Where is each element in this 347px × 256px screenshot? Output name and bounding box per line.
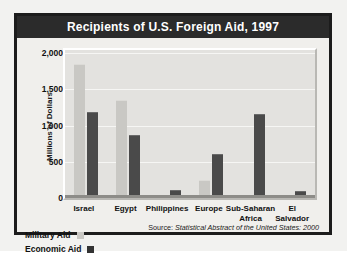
legend-item-label: Economic Aid: [25, 244, 81, 254]
bar-military-aid: [74, 64, 85, 196]
source-title: Statistical Abstract of the United State…: [175, 223, 319, 232]
y-tick-label: 500: [21, 157, 63, 167]
chart-legend: Military AidEconomic Aid: [25, 228, 195, 256]
bar-military-aid: [199, 180, 210, 196]
gridline: [65, 89, 315, 90]
x-axis-baseline: [65, 195, 315, 198]
bar-economic-aid: [254, 114, 265, 195]
gridline: [65, 126, 315, 127]
x-tick-label: ElSalvador: [262, 204, 322, 223]
chart-plot-area: Millions of Dollars 05001,0001,5002,000 …: [17, 38, 329, 238]
bar-economic-aid: [87, 112, 98, 195]
military-aid-swatch: [77, 232, 84, 239]
chart-title-bar: Recipients of U.S. Foreign Aid, 1997: [17, 16, 329, 38]
page-title: Recipients of U.S. Foreign Aid, 1997: [67, 20, 279, 34]
gridline: [65, 162, 315, 163]
y-tick-label: 0: [21, 193, 63, 203]
bar-military-aid: [116, 100, 127, 195]
chart-frame: Recipients of U.S. Foreign Aid, 1997 Mil…: [14, 13, 332, 235]
source-note: Source: Statistical Abstract of the Unit…: [148, 223, 319, 232]
y-tick-label: 1,500: [21, 84, 63, 94]
plot-box: [63, 48, 317, 200]
bar-economic-aid: [212, 154, 223, 195]
y-tick-label: 2,000: [21, 48, 63, 58]
gridline: [65, 53, 315, 54]
y-tick-label: 1,000: [21, 121, 63, 131]
y-axis-ticks: 05001,0001,5002,000: [17, 38, 63, 198]
legend-item: Economic Aid: [25, 242, 195, 256]
bar-economic-aid: [129, 135, 140, 195]
economic-aid-swatch: [87, 246, 94, 253]
source-lead: Source:: [148, 223, 175, 232]
plot-inner: [65, 50, 315, 198]
legend-item-label: Military Aid: [25, 230, 71, 240]
